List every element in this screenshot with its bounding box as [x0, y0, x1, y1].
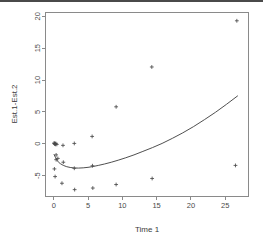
- y-axis-title: Est.1-Est.2: [10, 84, 19, 124]
- x-tick-label: 15: [152, 201, 160, 210]
- data-point-marker: [53, 167, 57, 171]
- y-tick-label: 15: [33, 44, 42, 52]
- data-point-marker: [60, 181, 64, 185]
- x-axis: 0510152025: [52, 196, 230, 210]
- data-point-marker: [72, 166, 76, 170]
- data-point-marker: [91, 186, 95, 190]
- y-tick-label: 10: [33, 76, 42, 84]
- data-point-marker: [234, 164, 238, 168]
- y-tick-label: 0: [33, 142, 42, 146]
- data-point-marker: [114, 183, 118, 187]
- data-point-marker: [53, 175, 57, 179]
- y-axis: -505101520: [33, 12, 45, 179]
- x-tick-label: 25: [221, 201, 229, 210]
- y-tick-label: 20: [33, 12, 42, 20]
- data-point-marker: [73, 188, 77, 192]
- data-point-marker: [235, 19, 239, 23]
- data-point-marker: [61, 143, 65, 147]
- data-point-marker: [90, 135, 94, 139]
- data-point-marker: [61, 160, 65, 164]
- data-points: [52, 19, 239, 192]
- y-tick-label: -5: [33, 172, 42, 179]
- chart-figure: -505101520 0510152025 Est.1-Est.2 Time 1: [0, 0, 263, 241]
- x-tick-label: 0: [52, 201, 56, 210]
- y-tick-label: 5: [33, 110, 42, 114]
- x-tick-label: 5: [86, 201, 90, 210]
- fitted-curve: [54, 96, 237, 168]
- scatter-plot-canvas: -505101520 0510152025 Est.1-Est.2 Time 1: [0, 0, 263, 241]
- data-point-marker: [150, 65, 154, 69]
- data-point-marker: [114, 105, 118, 109]
- x-tick-label: 20: [187, 201, 195, 210]
- x-axis-title: Time 1: [135, 225, 160, 234]
- x-tick-label: 10: [118, 201, 126, 210]
- data-point-marker: [72, 142, 76, 146]
- data-point-marker: [150, 177, 154, 181]
